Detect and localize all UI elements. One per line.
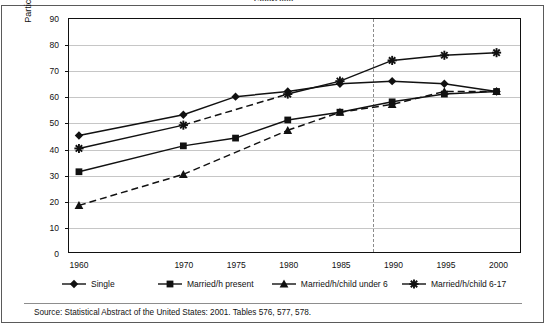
series-line: [288, 91, 497, 130]
legend-marker-diamond-icon: [62, 279, 86, 289]
y-tick-label: 70: [35, 66, 59, 76]
data-point-diamond: [440, 80, 448, 88]
data-point-diamond: [231, 93, 239, 101]
series-layer: [69, 19, 520, 252]
data-point-square: [180, 142, 187, 149]
y-tick-label: 80: [35, 40, 59, 50]
legend-marker-asterisk-icon: [402, 279, 426, 289]
data-point-square: [76, 168, 83, 175]
plot-area: 0102030405060708090 19601970197519801985…: [68, 18, 521, 253]
legend-label: Married/h present: [187, 279, 254, 289]
source-divider: [24, 303, 522, 304]
y-tick-label: 30: [35, 171, 59, 181]
data-point-diamond: [75, 131, 83, 139]
data-point-asterisk: [492, 48, 501, 57]
legend: SingleMarried/h presentMarried/h/child u…: [24, 276, 524, 292]
y-tick-label: 50: [35, 118, 59, 128]
legend-label: Single: [91, 279, 115, 289]
x-tick-label: 1995: [426, 260, 466, 270]
legend-marker-square-icon: [158, 279, 182, 289]
data-point-square: [167, 281, 174, 288]
y-tick-label: 0: [35, 249, 59, 259]
x-tick-label: 1960: [59, 260, 99, 270]
series-3: [75, 87, 501, 209]
x-tick-label: 1990: [374, 260, 414, 270]
data-point-diamond: [388, 77, 396, 85]
data-point-square: [232, 135, 239, 142]
legend-item-3[interactable]: Married/h/child under 6: [272, 279, 402, 289]
x-tick-label: 2000: [478, 260, 518, 270]
data-point-asterisk: [179, 121, 188, 130]
legend-item-4[interactable]: Married/h/child 6-17: [402, 279, 524, 289]
series-line: [79, 174, 183, 205]
x-tick-label: 1975: [216, 260, 256, 270]
y-tick-label: 60: [35, 92, 59, 102]
y-tick-label: 90: [35, 14, 59, 24]
data-point-triangle: [179, 170, 188, 178]
x-tick-label: 1985: [321, 260, 361, 270]
chart-figure: 1960-2000 0102030405060708090 1960197019…: [0, 0, 546, 328]
y-tick-label: 40: [35, 145, 59, 155]
source-note: Source: Statistical Abstract of the Unit…: [34, 308, 311, 317]
legend-label: Married/h/child 6-17: [431, 279, 506, 289]
legend-item-1[interactable]: Single: [24, 279, 158, 289]
legend-item-2[interactable]: Married/h present: [158, 279, 272, 289]
series-4: [74, 48, 501, 153]
data-point-diamond: [179, 111, 187, 119]
series-line: [79, 125, 183, 148]
data-point-square: [284, 117, 291, 124]
data-point-asterisk: [74, 144, 83, 153]
x-tick-label: 1980: [269, 260, 309, 270]
legend-marker-triangle-icon: [272, 279, 296, 289]
x-tick-label: 1970: [164, 260, 204, 270]
data-point-diamond: [70, 280, 78, 288]
y-tick-label: 20: [35, 197, 59, 207]
data-point-asterisk: [388, 56, 397, 65]
chart-title: 1960-2000: [0, 0, 546, 1]
legend-label: Married/h/child under 6: [301, 279, 388, 289]
data-point-asterisk: [440, 51, 449, 60]
y-tick-label: 10: [35, 223, 59, 233]
y-axis-title: Participation rate: [23, 0, 33, 69]
data-point-asterisk: [409, 279, 418, 288]
